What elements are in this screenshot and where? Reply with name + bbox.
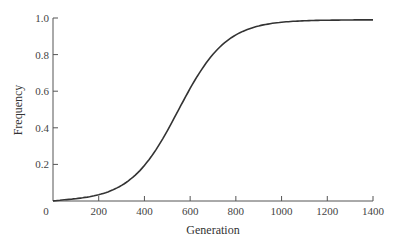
y-tick-label: 0.6 bbox=[35, 85, 49, 97]
curve-layer bbox=[53, 20, 373, 201]
frequency-curve bbox=[53, 20, 373, 201]
x-tick-label: 800 bbox=[228, 205, 245, 217]
x-axis-title: Generation bbox=[186, 223, 239, 237]
x-tick-label: 600 bbox=[182, 205, 199, 217]
x-tick-label: 1400 bbox=[362, 205, 385, 217]
y-axis-title: Frequency bbox=[11, 85, 25, 136]
y-tick-label: 0.8 bbox=[35, 49, 49, 61]
x-tick-label: 1000 bbox=[271, 205, 294, 217]
x-tick-label: 200 bbox=[90, 205, 107, 217]
y-tick-label: 1.0 bbox=[35, 12, 49, 24]
y-tick-label: 0.4 bbox=[35, 122, 49, 134]
x-tick-label: 400 bbox=[136, 205, 153, 217]
x-tick-label: 1200 bbox=[316, 205, 339, 217]
sigmoid-frequency-chart: 02004006008001000120014000.20.40.60.81.0… bbox=[0, 0, 399, 242]
x-tick-label: 0 bbox=[43, 205, 49, 217]
axes: 02004006008001000120014000.20.40.60.81.0 bbox=[35, 12, 384, 217]
y-tick-label: 0.2 bbox=[35, 158, 49, 170]
